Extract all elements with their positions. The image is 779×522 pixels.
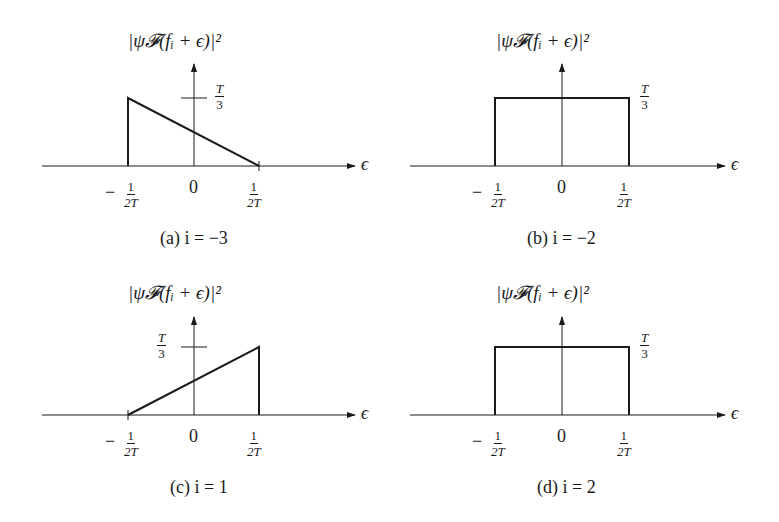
panel-a-xtick-right: 1 2T <box>247 180 261 209</box>
panel-d-caption: (d) i = 2 <box>537 477 596 498</box>
panel-d-xtick-zero: 0 <box>557 426 566 447</box>
panel-a-xtick-left-sign: − <box>105 182 115 203</box>
panel-c-ylabel: |ψ𝓕(fᵢ + ϵ)|² <box>128 282 221 304</box>
panel-d-ylabel: |ψ𝓕(fᵢ + ϵ)|² <box>496 282 589 304</box>
panel-b-xlabel: ϵ <box>731 154 738 175</box>
panel-d-xtick-left-sign: − <box>472 431 482 452</box>
panel-c-xtick-right: 1 2T <box>247 429 261 458</box>
panel-a-ytick-label: T 3 <box>215 82 224 111</box>
panel-d-xtick-right: 1 2T <box>617 429 631 458</box>
panel-c-ytick-label: T 3 <box>157 331 166 360</box>
panel-a-plot <box>42 64 355 171</box>
panel-b-xtick-right: 1 2T <box>617 180 631 209</box>
panel-c-xtick-zero: 0 <box>189 426 198 447</box>
panel-b-caption: (b) i = −2 <box>527 228 596 249</box>
panel-b-xtick-left: 1 2T <box>491 180 505 209</box>
panel-b-ylabel: |ψ𝓕(fᵢ + ϵ)|² <box>496 30 589 52</box>
panel-b-xtick-zero: 0 <box>557 177 566 198</box>
panel-d-xlabel: ϵ <box>731 403 738 424</box>
panel-c-xtick-left-sign: − <box>105 431 115 452</box>
panel-c-caption: (c) i = 1 <box>170 477 228 498</box>
panel-a-ylabel: |ψ𝓕(fᵢ + ϵ)|² <box>128 30 221 52</box>
panel-d-xtick-left: 1 2T <box>491 429 505 458</box>
figure-canvas <box>0 0 779 522</box>
panel-c-xtick-left: 1 2T <box>124 429 138 458</box>
panel-d-plot <box>410 317 725 415</box>
panel-a-xtick-left: 1 2T <box>124 180 138 209</box>
panel-b-xtick-left-sign: − <box>472 182 482 203</box>
panel-d-ytick-label: T 3 <box>640 331 649 360</box>
panel-a-xlabel: ϵ <box>361 154 368 175</box>
panel-a-xtick-zero: 0 <box>189 177 198 198</box>
panel-c-xlabel: ϵ <box>361 403 368 424</box>
panel-c-plot <box>42 317 355 420</box>
panel-a-caption: (a) i = −3 <box>160 228 228 249</box>
panel-b-ytick-label: T 3 <box>640 82 649 111</box>
panel-b-plot <box>410 64 725 166</box>
